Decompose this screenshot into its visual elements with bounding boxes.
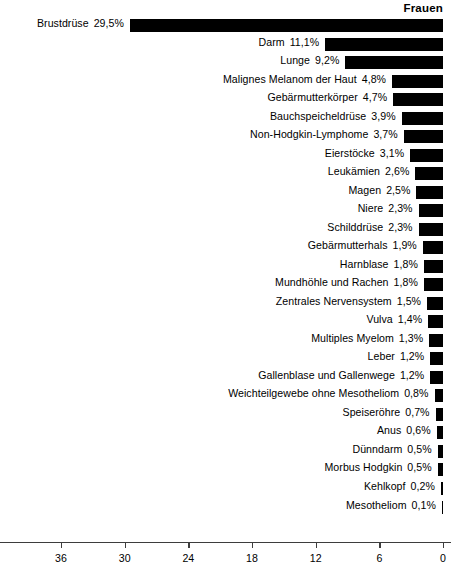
bar (419, 223, 443, 236)
value-label: 0,6% (406, 424, 436, 436)
bar-row: Gallenblase und Gallenwege1,2% (0, 369, 451, 388)
category-label: Gallenblase und Gallenwege (258, 369, 400, 381)
bar (442, 501, 443, 514)
value-label: 1,4% (398, 313, 428, 325)
bar-row-label: Lunge9,2% (280, 54, 345, 67)
bar-row-label: Morbus Hodgkin0,5% (325, 461, 438, 474)
bar-row: Magen2,5% (0, 184, 451, 203)
bar-row: Multiples Myelom1,3% (0, 332, 451, 351)
value-label: 0,5% (407, 443, 437, 455)
bar-row: Leber1,2% (0, 350, 451, 369)
category-label: Gebärmutterhals (308, 239, 393, 251)
bar-row-label: Harnblase1,8% (340, 258, 424, 271)
bar (416, 186, 443, 199)
value-label: 3,7% (373, 128, 403, 140)
x-axis-tick-label: 30 (105, 552, 145, 565)
category-label: Leukämien (328, 165, 385, 177)
bar (428, 315, 443, 328)
bar-row-label: Gallenblase und Gallenwege1,2% (258, 369, 430, 382)
category-label: Multiples Myelom (311, 332, 399, 344)
category-label: Leber (368, 350, 400, 362)
category-label: Niere (358, 202, 389, 214)
bar (424, 278, 443, 291)
category-label: Speiseröhre (343, 406, 406, 418)
bar (427, 297, 443, 310)
value-label: 1,3% (399, 332, 429, 344)
bar (430, 352, 443, 365)
category-label: Eierstöcke (325, 147, 380, 159)
x-axis-tick (125, 542, 126, 548)
bar-row-label: Vulva1,4% (366, 313, 428, 326)
x-axis-tick (316, 542, 317, 548)
bar-row: Gebärmutterhals1,9% (0, 239, 451, 258)
bar-row: Mundhöhle und Rachen1,8% (0, 276, 451, 295)
category-label: Vulva (366, 313, 397, 325)
value-label: 1,2% (400, 350, 430, 362)
value-label: 3,9% (371, 110, 401, 122)
bar-row-label: Mundhöhle und Rachen1,8% (275, 276, 424, 289)
bar-row: Bauchspeicheldrüse3,9% (0, 110, 451, 129)
value-label: 2,5% (386, 184, 416, 196)
bar (415, 167, 443, 180)
bar-row: Speiseröhre0,7% (0, 406, 451, 425)
bar-row-label: Darm11,1% (259, 36, 326, 49)
bar-row-label: Anus0,6% (377, 424, 437, 437)
bar-row-label: Zentrales Nervensystem1,5% (276, 295, 427, 308)
bar-row: Dünndarm0,5% (0, 443, 451, 462)
bar (423, 241, 443, 254)
bar-row: Malignes Melanom der Haut4,8% (0, 73, 451, 92)
bar-row: Gebärmutterkörper4,7% (0, 91, 451, 110)
value-label: 1,8% (394, 276, 424, 288)
bar-row: Brustdrüse29,5% (0, 17, 451, 36)
value-label: 0,8% (404, 387, 434, 399)
x-axis-tick-label: 12 (296, 552, 336, 565)
bar-row-label: Brustdrüse29,5% (37, 17, 130, 30)
value-label: 4,7% (363, 91, 393, 103)
bar-row: Harnblase1,8% (0, 258, 451, 277)
value-label: 1,8% (394, 258, 424, 270)
value-label: 1,2% (400, 369, 430, 381)
value-label: 11,1% (290, 36, 326, 48)
bar (430, 371, 443, 384)
bar-row: Schilddrüse2,3% (0, 221, 451, 240)
bar (438, 445, 443, 458)
category-label: Zentrales Nervensystem (276, 295, 397, 307)
bar (441, 482, 443, 495)
bar-row-label: Multiples Myelom1,3% (311, 332, 429, 345)
bar-row: Niere2,3% (0, 202, 451, 221)
bar-chart: Frauen Brustdrüse29,5%Darm11,1%Lunge9,2%… (0, 0, 451, 580)
x-axis-tick (188, 542, 189, 548)
bar-row-label: Bauchspeicheldrüse3,9% (270, 110, 402, 123)
bar-row-label: Leukämien2,6% (328, 165, 416, 178)
bar (438, 463, 443, 476)
bar (404, 130, 443, 143)
bar-row: Darm11,1% (0, 36, 451, 55)
bar-row-label: Gebärmutterkörper4,7% (267, 91, 393, 104)
category-label: Brustdrüse (37, 17, 94, 29)
bar (392, 75, 443, 88)
bar-row-label: Leber1,2% (368, 350, 431, 363)
x-axis-tick-label: 24 (168, 552, 208, 565)
bar (429, 334, 443, 347)
category-label: Morbus Hodgkin (325, 461, 408, 473)
category-label: Non-Hodgkin-Lymphome (250, 128, 373, 140)
bar-row: Mesotheliom0,1% (0, 499, 451, 518)
bar (435, 389, 443, 402)
value-label: 0,5% (407, 461, 437, 473)
value-label: 1,9% (392, 239, 422, 251)
category-label: Gebärmutterkörper (267, 91, 362, 103)
bar-row: Anus0,6% (0, 424, 451, 443)
bar (393, 93, 443, 106)
bar-row-label: Malignes Melanom der Haut4,8% (223, 73, 392, 86)
bar-row: Morbus Hodgkin0,5% (0, 461, 451, 480)
bar (419, 204, 443, 217)
bar-row: Vulva1,4% (0, 313, 451, 332)
bar-row-label: Speiseröhre0,7% (343, 406, 436, 419)
bar (437, 426, 443, 439)
value-label: 3,1% (380, 147, 410, 159)
bar-row-label: Dünndarm0,5% (352, 443, 437, 456)
value-label: 0,7% (405, 406, 435, 418)
category-label: Weichteilgewebe ohne Mesotheliom (228, 387, 404, 399)
x-axis-tick (61, 542, 62, 548)
bar-row: Eierstöcke3,1% (0, 147, 451, 166)
